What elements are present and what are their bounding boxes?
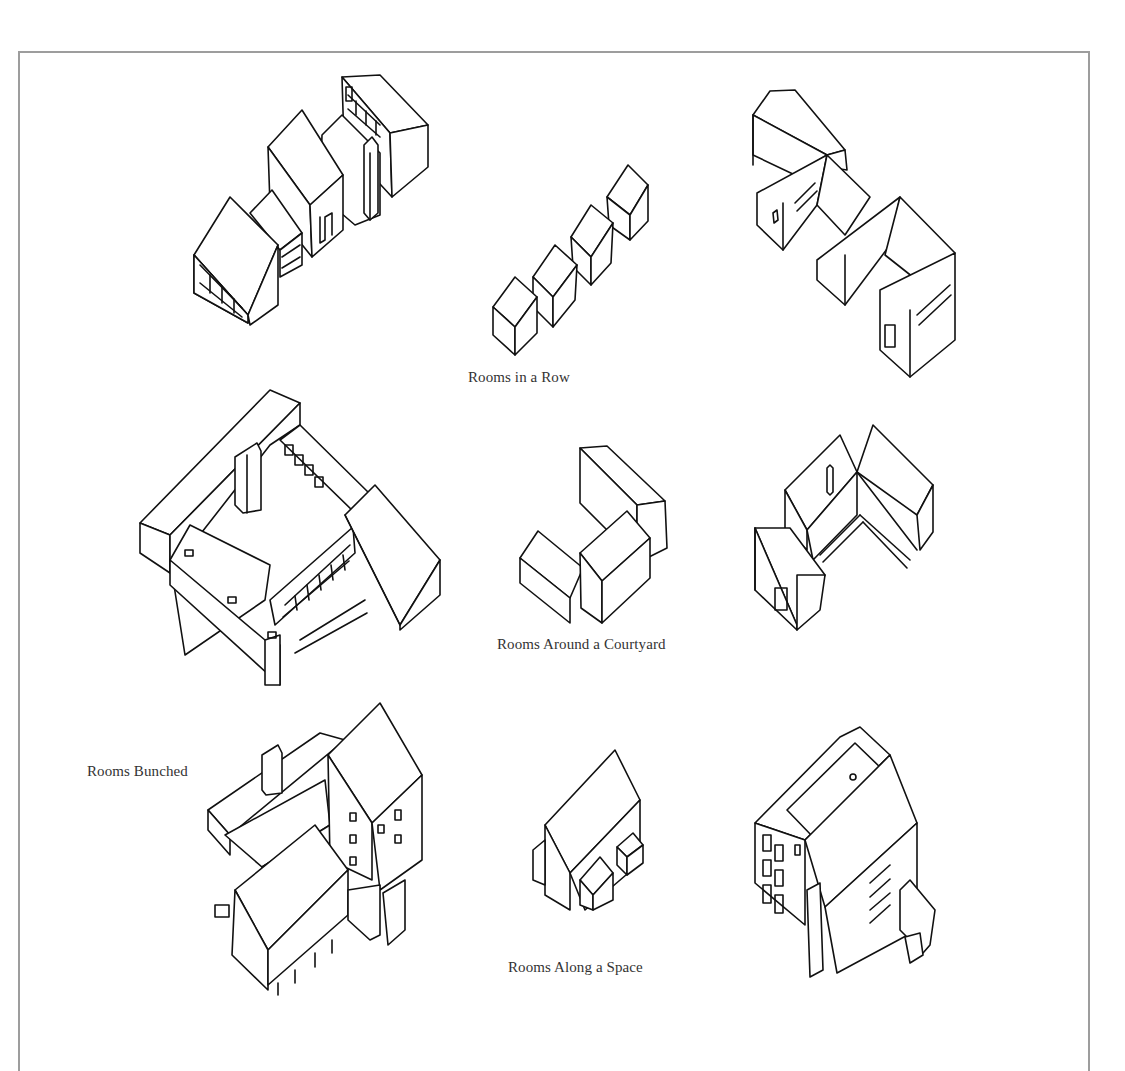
rooms-around-courtyard-diagram [515,443,670,623]
caption-rooms-in-a-row: Rooms in a Row [468,369,570,386]
rooms-along-a-space-diagram [525,745,650,910]
rooms-in-a-row-staggered-drawing [745,85,970,380]
rooms-along-a-space-house-drawing [745,715,945,990]
rooms-around-courtyard-drawing [135,385,445,685]
rooms-bunched-drawing [200,695,455,1000]
caption-rooms-around-a-courtyard: Rooms Around a Courtyard [497,636,666,653]
caption-rooms-bunched: Rooms Bunched [87,763,188,780]
rooms-around-courtyard-houses-drawing [745,420,940,620]
rooms-in-a-row-box-diagram [485,155,675,355]
caption-rooms-along-a-space: Rooms Along a Space [508,959,643,976]
rooms-in-a-row-house-drawing [180,65,440,325]
